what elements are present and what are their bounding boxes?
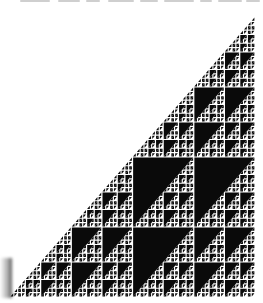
fractal-triangle-image [0,0,263,303]
fractal-cells [11,18,255,297]
